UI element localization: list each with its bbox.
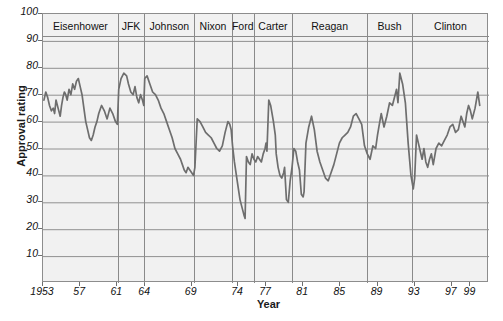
plot-area: EisenhowerJFKJohnsonNixonFordCarterReaga… [42,13,488,282]
y-tick-label-90: 90 [4,32,38,44]
y-tick-label-60: 60 [4,113,38,125]
y-tick-label-30: 30 [4,193,38,205]
president-label-carter: Carter [254,16,292,36]
president-label-nixon: Nixon [194,16,231,36]
y-tick-label-80: 80 [4,59,38,71]
y-tick-label-100: 100 [4,5,38,17]
x-tick-label-1977: 77 [259,285,271,297]
approval-rating-chart: Approval rating Year 1020304050607080901… [0,0,503,321]
y-tick-label-10: 10 [4,247,38,259]
x-tick-label-1985: 85 [333,285,345,297]
x-tick-label-1953: 1953 [30,285,53,297]
president-label-jfk: JFK [118,16,144,36]
y-tick-label-40: 40 [4,166,38,178]
president-label-johnson: Johnson [144,16,194,36]
president-label-bush: Bush [367,16,412,36]
y-tick-label-20: 20 [4,220,38,232]
x-tick-label-1981: 81 [296,285,308,297]
president-label-ford: Ford [232,16,254,36]
x-axis-title: Year [0,298,503,310]
x-tick-label-1969: 69 [185,285,197,297]
x-tick-label-1999: 99 [464,285,476,297]
x-tick-label-1993: 93 [408,285,420,297]
x-tick-label-1974: 74 [231,285,243,297]
y-tick-label-50: 50 [4,140,38,152]
x-tick-label-1957: 57 [73,285,85,297]
x-tick-label-1964: 64 [138,285,150,297]
plot-svg [43,14,489,283]
x-tick-label-1989: 89 [371,285,383,297]
president-label-eisenhower: Eisenhower [43,16,118,36]
x-tick-label-1961: 61 [110,285,122,297]
president-label-clinton: Clinton [412,16,489,36]
president-label-reagan: Reagan [292,16,367,36]
y-tick-label-70: 70 [4,86,38,98]
x-tick-label-1997: 97 [445,285,457,297]
